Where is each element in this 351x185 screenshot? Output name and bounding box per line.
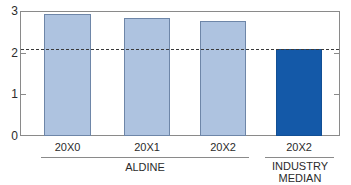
y-tick-label-3: 3 — [2, 5, 18, 17]
bar-20x2-industry-median — [276, 49, 322, 136]
bar-20x1 — [124, 18, 170, 136]
x-tick-label-3: 20X2 — [276, 142, 322, 153]
bar-chart: 3 2 1 0 20X0 20X1 20X2 20X2 ALDINE INDUS… — [0, 0, 351, 185]
y-tick-mark-1 — [20, 94, 26, 95]
y-tick-mark-2 — [20, 53, 26, 54]
group-label-aldine: ALDINE — [41, 161, 249, 173]
x-tick-label-2: 20X2 — [200, 142, 246, 153]
group-rule-industry-median — [265, 157, 334, 158]
bar-20x2-aldine — [200, 21, 246, 136]
y-tick-label-1: 1 — [2, 88, 18, 100]
x-tick-label-1: 20X1 — [124, 142, 170, 153]
industry-median-reference-line — [21, 49, 339, 50]
y-tick-label-0: 0 — [2, 130, 18, 142]
group-label-industry: INDUSTRY — [258, 160, 342, 172]
bar-20x0 — [44, 14, 91, 136]
y-axis: 3 2 1 0 — [0, 0, 18, 185]
group-rule-aldine — [41, 157, 249, 158]
y-tick-mark-2-right — [334, 53, 340, 54]
x-tick-label-0: 20X0 — [44, 142, 91, 153]
y-tick-mark-1-right — [334, 94, 340, 95]
y-tick-label-2: 2 — [2, 47, 18, 59]
group-label-median: MEDIAN — [258, 172, 342, 184]
